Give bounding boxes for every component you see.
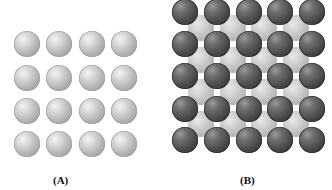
dark-sphere (267, 96, 293, 122)
dark-sphere (267, 31, 293, 57)
dark-sphere (236, 96, 262, 122)
dark-sphere (236, 0, 262, 25)
dark-sphere (204, 63, 230, 89)
dark-sphere (204, 127, 230, 153)
dark-sphere (236, 63, 262, 89)
dark-sphere (267, 127, 293, 153)
panel-a-label: (A) (53, 174, 68, 186)
dark-sphere (172, 63, 198, 89)
dark-sphere (172, 31, 198, 57)
dark-sphere (299, 0, 325, 25)
dark-sphere (172, 0, 198, 25)
dark-sphere (267, 0, 293, 25)
dark-sphere (299, 127, 325, 153)
panel-b-layered-lattice (0, 0, 332, 190)
dark-sphere (172, 127, 198, 153)
dark-sphere (204, 31, 230, 57)
dark-sphere (267, 63, 293, 89)
dark-sphere (299, 63, 325, 89)
dark-sphere (204, 96, 230, 122)
panel-b-label: (B) (240, 174, 255, 186)
dark-sphere (236, 127, 262, 153)
dark-sphere (299, 96, 325, 122)
dark-sphere (299, 31, 325, 57)
dark-sphere (204, 0, 230, 25)
dark-sphere (236, 31, 262, 57)
dark-sphere (172, 96, 198, 122)
